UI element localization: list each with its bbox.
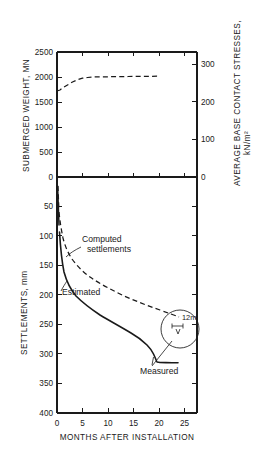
top-panel-right-ticks [192, 64, 197, 177]
bottom-panel-right-ticks [192, 206, 197, 383]
x-axis-title: MONTHS AFTER INSTALLATION [60, 433, 195, 442]
x-tick-25: 25 [180, 419, 190, 428]
top-right-tick-100: 100 [201, 135, 215, 144]
computed-settlements-annotation: Computed settlements [66, 234, 131, 257]
top-panel-left-ticks [57, 52, 62, 177]
top-right-axis-title-line2: kN/m² [243, 131, 252, 155]
submerged-weight-curve [57, 76, 159, 91]
top-left-tick-1500: 1500 [35, 98, 54, 107]
top-left-tick-2500: 2500 [35, 48, 54, 57]
settlement-time-figure: 2500 2000 1500 1000 500 0 300 200 100 0 … [0, 0, 258, 469]
top-right-tick-200: 200 [201, 98, 215, 107]
bottom-left-tick-50: 50 [44, 202, 54, 211]
estimated-annotation: Estimated [61, 281, 100, 297]
top-right-tick-300: 300 [201, 60, 215, 69]
bottom-left-tick-150: 150 [39, 261, 53, 270]
top-right-tick-0: 0 [201, 173, 206, 182]
top-left-tick-2000: 2000 [35, 73, 54, 82]
bottom-left-tick-250: 250 [39, 320, 53, 329]
computed-label-line2: settlements [87, 244, 131, 254]
bottom-panel: 50 100 150 200 250 300 350 400 [39, 177, 197, 428]
top-right-axis-title-line1: AVERAGE BASE CONTACT STRESSES, [233, 20, 242, 186]
top-left-tick-1000: 1000 [35, 123, 54, 132]
computed-settlements-curve [59, 212, 179, 317]
x-tick-20: 20 [154, 419, 164, 428]
computed-label-line1: Computed [82, 234, 122, 244]
top-panel: 2500 2000 1500 1000 500 0 300 200 100 0 [35, 48, 215, 182]
inset-foundation-symbol [176, 329, 180, 334]
top-panel-top-ticks [83, 52, 185, 56]
bottom-left-tick-300: 300 [39, 350, 53, 359]
bottom-left-axis-title: SETTLEMENTS, mm [20, 270, 29, 355]
measured-annotation: Measured [140, 357, 178, 376]
top-panel-baseline-ticks [83, 173, 185, 177]
x-tick-15: 15 [129, 419, 139, 428]
top-left-tick-500: 500 [39, 148, 53, 157]
bottom-panel-x-ticks [57, 408, 185, 413]
bottom-left-tick-100: 100 [39, 232, 53, 241]
bottom-left-tick-200: 200 [39, 291, 53, 300]
bottom-left-tick-400: 400 [39, 409, 53, 418]
x-tick-5: 5 [80, 419, 85, 428]
x-tick-0: 0 [55, 419, 60, 428]
estimated-label: Estimated [62, 287, 100, 297]
inset-dimension-label: 12m [182, 313, 196, 322]
measured-label: Measured [140, 366, 178, 376]
bottom-left-tick-350: 350 [39, 379, 53, 388]
inset-callout: 12m [152, 310, 199, 366]
top-left-tick-0: 0 [48, 173, 53, 182]
top-left-axis-title: SUBMERGED WEIGHT, MN [22, 59, 31, 172]
figure-svg: 2500 2000 1500 1000 500 0 300 200 100 0 … [0, 0, 258, 469]
x-tick-10: 10 [103, 419, 113, 428]
